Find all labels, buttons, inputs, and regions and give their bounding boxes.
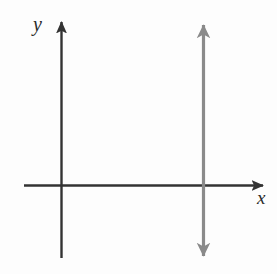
- y-axis-label: y: [33, 14, 42, 34]
- coordinate-plane-canvas: [0, 0, 277, 274]
- x-axis-label: x: [257, 188, 265, 207]
- graph-figure: y x: [0, 0, 277, 274]
